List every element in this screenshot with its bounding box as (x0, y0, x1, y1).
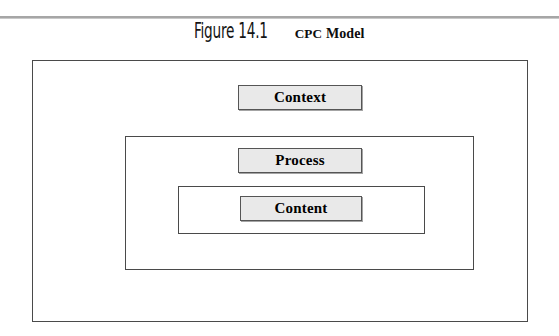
figure-caption: Figure 14.1 CPC Model (0, 20, 559, 44)
figure-title-abbreviation: CPC (295, 26, 323, 41)
process-label-box: Process (238, 148, 362, 173)
content-label-box: Content (240, 196, 362, 221)
caption-top-rule (0, 16, 559, 18)
figure-number: Figure 14.1 (194, 18, 268, 42)
figure-title-rest: Model (322, 26, 364, 41)
context-label-box: Context (238, 85, 362, 110)
figure-title: CPC Model (295, 26, 365, 42)
